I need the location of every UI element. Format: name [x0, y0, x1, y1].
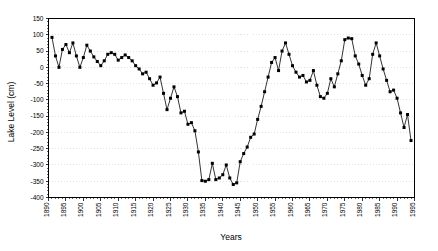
x-tick-label: 1905	[95, 202, 102, 217]
x-tick-label: 1975	[339, 202, 346, 217]
y-axis-tick-labels: 150100500-50-100-150-200-250-300-350-400	[30, 15, 43, 201]
data-point-marker	[319, 95, 322, 98]
data-point-marker	[92, 55, 95, 58]
data-point-marker	[396, 97, 399, 100]
data-point-marker	[120, 56, 123, 59]
data-point-marker	[322, 97, 325, 100]
x-tick-label: 1990	[391, 202, 398, 217]
data-point-marker	[305, 80, 308, 83]
y-tick-label: -300	[30, 161, 43, 168]
data-point-marker	[235, 181, 238, 184]
data-point-marker	[57, 66, 60, 69]
data-point-marker	[406, 113, 409, 116]
data-point-marker	[190, 121, 193, 124]
data-point-marker	[218, 176, 221, 179]
data-point-marker	[127, 56, 130, 59]
data-point-marker	[124, 53, 127, 56]
data-series-lake-level	[50, 36, 412, 186]
y-tick-label: 150	[33, 15, 44, 22]
x-tick-label: 1955	[269, 202, 276, 217]
data-point-marker	[214, 178, 217, 181]
data-point-marker	[152, 84, 155, 87]
data-point-marker	[392, 89, 395, 92]
x-tick-label: 1890	[43, 202, 50, 217]
data-point-marker	[106, 53, 109, 56]
data-point-marker	[270, 61, 273, 64]
data-point-marker	[169, 97, 172, 100]
chart-figure: 150100500-50-100-150-200-250-300-350-400…	[0, 0, 438, 251]
data-point-marker	[145, 71, 148, 74]
data-point-marker	[193, 129, 196, 132]
y-tick-label: 50	[36, 47, 44, 54]
data-point-marker	[148, 77, 151, 80]
data-point-marker	[326, 92, 329, 95]
y-tick-label: -150	[30, 112, 43, 119]
data-point-marker	[110, 51, 113, 54]
data-point-marker	[211, 162, 214, 165]
y-tick-label: -200	[30, 129, 43, 136]
y-tick-label: -400	[30, 194, 43, 201]
x-tick-label: 1920	[147, 202, 154, 217]
x-tick-label: 1945	[234, 202, 241, 217]
x-tick-label: 1935	[199, 202, 206, 217]
x-tick-label: 1950	[252, 202, 259, 217]
data-point-marker	[207, 178, 210, 181]
x-tick-label: 1930	[182, 202, 189, 217]
data-point-marker	[301, 74, 304, 77]
data-point-marker	[155, 81, 158, 84]
data-point-marker	[117, 59, 120, 62]
x-tick-label: 1995	[409, 202, 416, 217]
data-point-marker	[186, 123, 189, 126]
data-point-marker	[291, 64, 294, 67]
data-point-marker	[85, 44, 88, 47]
data-point-marker	[113, 53, 116, 56]
data-point-marker	[239, 160, 242, 163]
y-axis-title: Lake Level (cm)	[6, 82, 16, 143]
data-point-marker	[347, 37, 350, 40]
data-point-marker	[176, 95, 179, 98]
data-point-marker	[298, 76, 301, 79]
data-point-marker	[385, 79, 388, 82]
data-point-marker	[284, 41, 287, 44]
data-point-marker	[99, 64, 102, 67]
x-tick-label: 1910	[112, 202, 119, 217]
data-point-marker	[138, 67, 141, 70]
data-point-marker	[340, 59, 343, 62]
data-point-marker	[329, 77, 332, 80]
data-point-marker	[350, 37, 353, 40]
data-point-marker	[364, 84, 367, 87]
data-point-marker	[375, 41, 378, 44]
x-tick-label: 1985	[374, 202, 381, 217]
data-point-marker	[183, 110, 186, 113]
data-point-marker	[78, 66, 81, 69]
x-tick-label: 1895	[60, 202, 67, 217]
data-point-marker	[172, 85, 175, 88]
data-point-marker	[281, 50, 284, 53]
data-point-marker	[260, 105, 263, 108]
data-point-marker	[166, 108, 169, 111]
data-point-marker	[256, 118, 259, 121]
data-point-marker	[242, 152, 245, 155]
y-tick-label: -50	[34, 80, 44, 87]
x-tick-label: 1980	[356, 202, 363, 217]
y-tick-label: 0	[40, 64, 44, 71]
data-point-marker	[159, 76, 162, 79]
data-point-marker	[333, 85, 336, 88]
data-point-marker	[263, 90, 266, 93]
y-tick-label: 100	[33, 31, 44, 38]
data-point-marker	[75, 54, 78, 57]
data-point-marker	[389, 90, 392, 93]
data-point-marker	[371, 53, 374, 56]
data-point-marker	[274, 56, 277, 59]
data-point-marker	[162, 92, 165, 95]
data-point-marker	[179, 111, 182, 114]
data-point-marker	[54, 54, 57, 57]
data-point-marker	[249, 136, 252, 139]
data-point-marker	[82, 56, 85, 59]
lake-level-line-chart: 150100500-50-100-150-200-250-300-350-400…	[0, 0, 438, 251]
data-point-marker	[399, 111, 402, 114]
data-point-marker	[61, 48, 64, 51]
x-tick-label: 1965	[304, 202, 311, 217]
data-point-marker	[228, 176, 231, 179]
y-tick-label: -100	[30, 96, 43, 103]
